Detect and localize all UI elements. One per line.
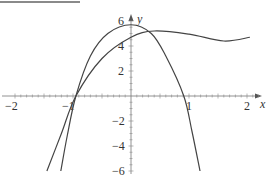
y-tick-label: −4 (112, 139, 125, 153)
x-tick-label: −2 (5, 99, 18, 113)
y-axis-arrow-icon (129, 14, 134, 21)
curve-peaked (61, 25, 200, 171)
y-tick-label: 2 (118, 64, 124, 78)
curve-flat (47, 31, 250, 171)
y-tick-label: −6 (112, 164, 125, 178)
y-tick-label: −2 (112, 114, 125, 128)
y-axis-label: y (136, 12, 143, 26)
x-tick-label: 2 (244, 99, 250, 113)
x-axis-label: x (259, 97, 266, 111)
plot: −2 −1 1 2 6 4 2 −2 −4 −6 y x (0, 0, 268, 178)
